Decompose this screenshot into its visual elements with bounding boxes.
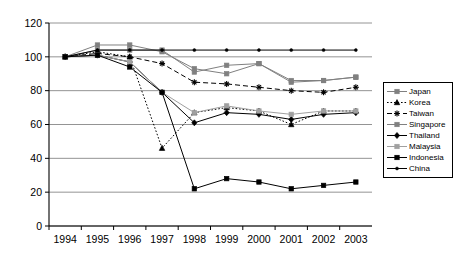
data-point-marker	[192, 66, 196, 70]
data-point-marker	[128, 49, 131, 52]
data-point-marker	[192, 110, 196, 114]
data-point-marker	[290, 49, 293, 52]
y-axis-tick-label: 80	[30, 84, 42, 96]
legend-swatch-icon	[386, 152, 408, 163]
data-point-marker	[224, 110, 229, 116]
y-axis-tick-label: 20	[30, 186, 42, 198]
data-point-marker	[354, 180, 358, 184]
legend-item-china[interactable]: China	[386, 163, 450, 174]
data-point-marker	[288, 88, 294, 94]
data-point-marker	[257, 61, 261, 65]
data-point-marker	[193, 49, 196, 52]
legend-item-label: Taiwan	[408, 108, 434, 119]
data-point-marker	[321, 78, 325, 82]
data-point-marker	[257, 109, 261, 113]
data-point-marker	[225, 49, 228, 52]
data-point-marker	[224, 81, 230, 87]
legend-swatch-icon	[386, 141, 408, 152]
data-point-marker	[289, 112, 293, 116]
data-point-marker	[394, 133, 399, 139]
legend-item-label: Malaysia	[408, 141, 441, 152]
series-thailand	[63, 52, 359, 126]
series-singapore	[63, 43, 358, 85]
series-line	[65, 55, 356, 114]
data-point-marker	[354, 75, 358, 79]
data-point-marker	[191, 79, 197, 85]
x-axis-tick-label: 1995	[86, 233, 110, 245]
data-point-marker	[64, 55, 67, 58]
legend-swatch-icon	[386, 108, 408, 119]
y-axis-tick-label: 0	[36, 220, 42, 232]
data-point-marker	[394, 111, 400, 117]
data-point-marker	[95, 53, 99, 57]
x-axis-tick-label: 2001	[280, 233, 304, 245]
y-axis-tick-label: 100	[24, 51, 42, 63]
legend-item-taiwan[interactable]: Taiwan	[386, 108, 450, 119]
data-point-marker	[224, 176, 228, 180]
series-line	[65, 45, 356, 82]
legend-item-thailand[interactable]: Thailand	[386, 130, 450, 141]
data-point-marker	[159, 61, 165, 67]
data-point-marker	[95, 43, 99, 47]
y-axis-tick-label: 40	[30, 152, 42, 164]
data-point-marker	[161, 49, 164, 52]
legend-item-japan[interactable]: Japan	[386, 86, 450, 97]
x-axis-tick-label: 2000	[247, 233, 271, 245]
x-axis-tick-label: 1998	[183, 233, 207, 245]
series-line	[65, 55, 356, 189]
chart-container: 0204060801001201994199519961997199819992…	[0, 0, 460, 271]
data-point-marker	[160, 90, 164, 94]
x-axis-tick-label: 2002	[312, 233, 336, 245]
data-point-marker	[224, 72, 228, 76]
x-axis-tick-label: 1996	[118, 233, 142, 245]
chart-legend: JapanKoreaTaiwanSingaporeThailandMalaysi…	[383, 82, 453, 178]
legend-item-singapore[interactable]: Singapore	[386, 119, 450, 130]
data-point-marker	[354, 49, 357, 52]
data-point-marker	[257, 49, 260, 52]
data-point-marker	[354, 109, 358, 113]
data-point-marker	[395, 89, 399, 93]
series-line	[65, 52, 356, 148]
series-korea	[62, 49, 358, 151]
data-point-marker	[321, 109, 325, 113]
data-point-marker	[321, 183, 325, 187]
x-axis-tick-label: 2003	[344, 233, 368, 245]
legend-item-label: Korea	[408, 97, 430, 108]
legend-item-malaysia[interactable]: Malaysia	[386, 141, 450, 152]
data-point-marker	[128, 60, 132, 64]
legend-swatch-icon	[386, 119, 408, 130]
data-point-marker	[395, 144, 399, 148]
data-point-marker	[322, 49, 325, 52]
legend-swatch-icon	[386, 163, 408, 174]
legend-swatch-icon	[386, 86, 408, 97]
legend-item-label: Singapore	[408, 119, 445, 130]
x-axis-tick-label: 1994	[53, 233, 77, 245]
data-point-marker	[96, 49, 99, 52]
series-line	[65, 55, 356, 123]
series-malaysia	[63, 53, 358, 117]
legend-swatch-icon	[386, 97, 408, 108]
data-point-marker	[289, 116, 294, 122]
x-axis-tick-label: 1999	[215, 233, 239, 245]
data-point-marker	[353, 84, 359, 90]
data-point-marker	[128, 43, 132, 47]
data-point-marker	[289, 187, 293, 191]
y-axis-tick-label: 120	[24, 17, 42, 29]
data-point-marker	[395, 122, 399, 126]
series-indonesia	[63, 53, 358, 191]
data-point-marker	[128, 65, 132, 69]
data-point-marker	[257, 180, 261, 184]
data-point-marker	[224, 63, 228, 67]
data-point-marker	[256, 84, 262, 90]
series-line	[65, 50, 356, 57]
legend-item-korea[interactable]: Korea	[386, 97, 450, 108]
data-point-marker	[396, 167, 399, 170]
legend-item-indonesia[interactable]: Indonesia	[386, 152, 450, 163]
legend-item-label: Indonesia	[408, 152, 444, 163]
data-point-marker	[395, 155, 399, 159]
legend-item-label: China	[408, 163, 430, 174]
x-axis-tick-label: 1997	[150, 233, 174, 245]
data-point-marker	[192, 187, 196, 191]
data-point-marker	[289, 80, 293, 84]
legend-item-label: Japan	[408, 86, 431, 97]
